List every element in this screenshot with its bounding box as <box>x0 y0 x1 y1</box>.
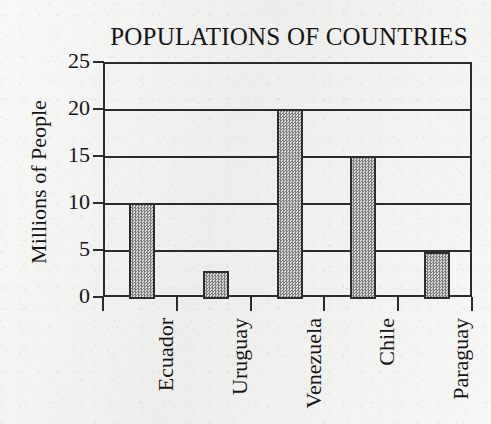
x-axis-label-uruguay: Uruguay <box>227 318 253 424</box>
bar-ecuador <box>129 203 155 299</box>
x-axis-label-venezuela: Venezuela <box>301 318 327 424</box>
y-axis-tick-label: 25 <box>38 50 90 72</box>
chart-figure: POPULATIONS OF COUNTRIES Millions of Peo… <box>0 0 491 424</box>
x-axis-tick <box>176 297 178 311</box>
y-axis-tick <box>93 155 104 157</box>
y-axis-tick-label: 5 <box>38 238 90 260</box>
x-axis-tick <box>102 297 104 311</box>
x-axis-label-ecuador: Ecuador <box>153 318 179 424</box>
chart-title: POPULATIONS OF COUNTRIES <box>103 22 475 52</box>
bar-chile <box>350 156 376 299</box>
x-axis-tick <box>323 297 325 311</box>
y-axis-tick-labels: 0510152025 <box>32 0 90 424</box>
y-axis-tick-label: 20 <box>38 97 90 119</box>
plot-area <box>103 62 472 297</box>
y-axis-tick-label: 10 <box>38 191 90 213</box>
x-axis-label-chile: Chile <box>374 318 400 424</box>
bar-paraguay <box>424 252 450 299</box>
x-axis-tick <box>471 297 473 311</box>
bar-venezuela <box>277 109 303 299</box>
y-axis-tick <box>93 61 104 63</box>
x-axis-label-paraguay: Paraguay <box>448 318 474 424</box>
y-axis-tick <box>93 108 104 110</box>
x-axis-tick <box>397 297 399 311</box>
x-axis-tick <box>250 297 252 311</box>
y-axis-tick-label: 0 <box>38 285 90 307</box>
y-axis-tick-label: 15 <box>38 144 90 166</box>
bar-uruguay <box>203 271 229 299</box>
y-axis-tick <box>93 202 104 204</box>
y-axis-tick <box>93 249 104 251</box>
